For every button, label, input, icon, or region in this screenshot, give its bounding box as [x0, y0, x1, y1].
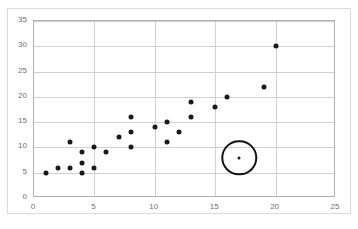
chart-title [0, 0, 358, 2]
data-point [176, 130, 181, 135]
gridline-vertical [155, 21, 156, 196]
data-point [56, 165, 61, 170]
data-point [164, 140, 169, 145]
data-point [80, 170, 85, 175]
data-point [92, 165, 97, 170]
gridline-horizontal [34, 72, 334, 73]
data-point [44, 170, 49, 175]
data-point [273, 44, 278, 49]
scatter-plot-figure: 051015202530350510152025 [0, 0, 358, 229]
data-point [116, 135, 121, 140]
data-point [189, 99, 194, 104]
data-point [213, 104, 218, 109]
data-point [128, 145, 133, 150]
data-point [104, 150, 109, 155]
gridline-horizontal [34, 21, 334, 22]
data-point [128, 130, 133, 135]
gridline-horizontal [34, 122, 334, 123]
data-point [128, 115, 133, 120]
data-point [68, 140, 73, 145]
gridline-horizontal [34, 46, 334, 47]
gridline-horizontal [34, 97, 334, 98]
data-point [68, 165, 73, 170]
outlier-highlight-circle [222, 140, 257, 175]
data-point [225, 94, 230, 99]
gridline-horizontal [34, 147, 334, 148]
data-point [189, 115, 194, 120]
plot-area [33, 20, 335, 197]
data-point [261, 84, 266, 89]
data-point [92, 145, 97, 150]
data-point [164, 120, 169, 125]
data-point [80, 160, 85, 165]
data-point [152, 125, 157, 130]
data-point [80, 150, 85, 155]
